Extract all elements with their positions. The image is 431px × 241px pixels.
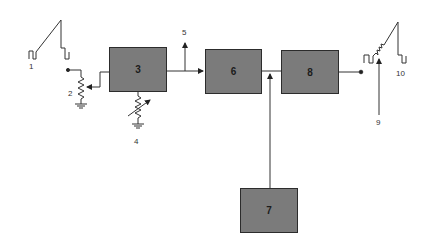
block-8-label: 8	[307, 67, 313, 78]
label-9: 9	[376, 119, 380, 127]
waveform-1-icon	[29, 20, 69, 59]
label-1: 1	[29, 63, 33, 71]
diagram-wiring	[0, 0, 431, 241]
block-3-label: 3	[135, 64, 141, 75]
label-4: 4	[134, 138, 138, 146]
variable-resistor-4-icon	[128, 92, 150, 128]
label-10: 10	[396, 70, 405, 78]
block-diagram: 3 6 8 7 1 2 4 5 9 10	[0, 0, 431, 241]
potentiometer-2-icon	[66, 68, 109, 108]
block-6: 6	[205, 49, 262, 94]
block-8: 8	[281, 50, 339, 94]
block-3: 3	[109, 47, 167, 92]
block-7: 7	[240, 188, 298, 233]
block-6-label: 6	[231, 66, 237, 77]
block-7-label: 7	[266, 205, 272, 216]
label-5: 5	[182, 29, 186, 37]
waveform-10-icon	[364, 22, 406, 63]
label-2: 2	[68, 90, 72, 98]
